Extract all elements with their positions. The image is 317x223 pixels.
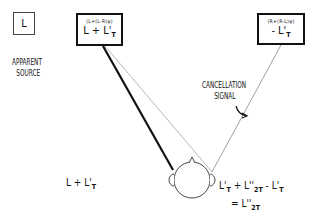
equation-line2: = L''2T <box>219 197 283 215</box>
apparent-source-label: L <box>21 17 27 30</box>
cancellation-line2: SIGNAL <box>200 91 248 102</box>
listener-head-icon <box>169 157 215 198</box>
left-speaker-box: (L+(L-R)ψ) L + L'T <box>76 13 123 46</box>
left-ear-signal-main: L + L' <box>66 177 92 188</box>
apparent-source-box: L <box>13 12 35 35</box>
eq-term2-sub: 2T <box>254 186 263 194</box>
left-speaker-formula-main: L + L' <box>83 24 111 37</box>
right-speaker-formula-main: - L' <box>271 24 286 37</box>
left-speaker-formula: L + L'T <box>78 24 121 42</box>
eq-term2: L'' <box>244 180 254 191</box>
caption-line1: APPARENT <box>11 57 43 68</box>
eq-op1: + <box>231 180 244 191</box>
eq-result: L'' <box>241 198 251 209</box>
direct-path-line <box>103 46 173 170</box>
apparent-source-caption: APPARENT SOURCE <box>11 57 43 79</box>
crosstalk-path-line <box>105 46 212 172</box>
caption-line2: SOURCE <box>11 68 43 79</box>
left-speaker-formula-sub: T <box>112 31 116 39</box>
cancellation-line1: CANCELLATION <box>200 80 248 91</box>
eq-op2: - <box>263 180 272 191</box>
right-speaker-box: (R+(R-L)ψ) - L'T <box>257 13 305 45</box>
cancellation-path-line <box>212 45 281 172</box>
left-ear-signal: L + L'T <box>66 176 96 194</box>
right-speaker-formula-sub: T <box>286 31 290 39</box>
right-ear-equation: L'T + L''2T - L'T = L''2T <box>219 179 283 215</box>
eq-equals: = <box>231 198 241 209</box>
cancellation-signal-label: CANCELLATION SIGNAL <box>200 80 248 102</box>
eq-result-sub: 2T <box>251 204 260 212</box>
equation-line1: L'T + L''2T - L'T <box>219 179 283 197</box>
right-speaker-formula: - L'T <box>259 24 303 42</box>
left-ear-signal-sub: T <box>92 183 96 191</box>
eq-term3-sub: T <box>279 186 283 194</box>
